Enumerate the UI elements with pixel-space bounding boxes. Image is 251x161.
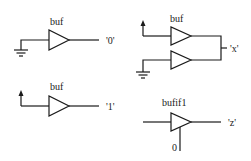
input-wire (21, 40, 49, 50)
buf-ground-gate: buf '0' (14, 16, 115, 56)
buffer-triangle-icon (171, 27, 191, 45)
buffer-logic-diagram: buf '0' buf 'x' buf (0, 0, 251, 161)
buffer-triangle-icon (171, 51, 191, 69)
output-value: 'x' (230, 43, 239, 54)
ground-icon (14, 50, 28, 56)
gate-label: buf (50, 16, 64, 27)
bufif1-gate: bufif1 'z' 0 (143, 97, 236, 153)
buffer-triangle-icon (171, 113, 191, 131)
supply-arrow-icon (19, 90, 24, 106)
control-value: 0 (172, 142, 177, 153)
gate-label: buf (170, 13, 184, 24)
output-value: '0' (106, 35, 115, 46)
gate-label: buf (50, 81, 64, 92)
output-value: '1' (106, 101, 115, 112)
buf-contention-gate: buf 'x' (136, 13, 239, 78)
gate-label: bufif1 (162, 97, 186, 108)
buffer-triangle-icon (49, 30, 69, 50)
supply-arrow-icon (141, 20, 146, 36)
input-wire-lower (143, 60, 171, 72)
buffer-triangle-icon (49, 96, 69, 116)
output-wired-net (191, 36, 221, 60)
ground-icon (136, 72, 150, 78)
output-value: 'z' (228, 117, 236, 128)
buf-supply-gate: buf '1' (19, 81, 115, 116)
